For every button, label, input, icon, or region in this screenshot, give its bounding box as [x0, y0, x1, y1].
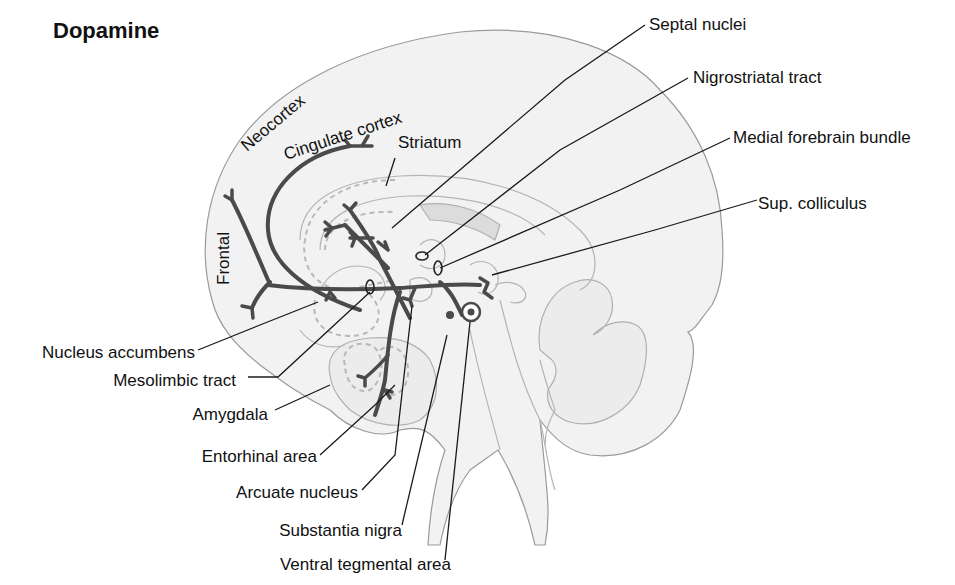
label-entorhinal-area: Entorhinal area [202, 447, 318, 466]
label-substantia-nigra: Substantia nigra [279, 521, 402, 540]
dopamine-pathway-diagram: Dopamine [0, 0, 955, 585]
label-arcuate-nucleus: Arcuate nucleus [236, 483, 358, 502]
label-septal-nuclei: Septal nuclei [649, 15, 746, 34]
label-ventral-tegmental-area: Ventral tegmental area [280, 555, 452, 574]
label-striatum: Striatum [398, 133, 461, 152]
label-nucleus-accumbens: Nucleus accumbens [42, 343, 195, 362]
diagram-title: Dopamine [53, 18, 159, 43]
label-amygdala: Amygdala [192, 405, 268, 424]
label-nigrostriatal-tract: Nigrostriatal tract [693, 68, 822, 87]
label-sup-colliculus: Sup. colliculus [758, 194, 867, 213]
label-frontal: Frontal [214, 232, 233, 285]
label-mesolimbic-tract: Mesolimbic tract [113, 371, 236, 390]
label-medial-forebrain-bundle: Medial forebrain bundle [733, 128, 911, 147]
